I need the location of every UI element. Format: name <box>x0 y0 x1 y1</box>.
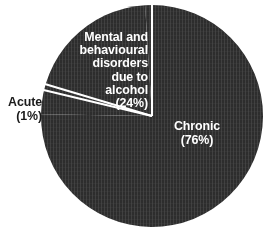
pie-chart-figure: Mental and behavioural disorders due to … <box>0 0 269 232</box>
pie-label-chronic: Chronic (76%) <box>158 120 236 147</box>
pie-label-mental-and-behavioural-disorders-due-to-alcohol: Mental and behavioural disorders due to … <box>46 31 148 110</box>
pie-label-acute: Acute (1%) <box>1 96 42 123</box>
